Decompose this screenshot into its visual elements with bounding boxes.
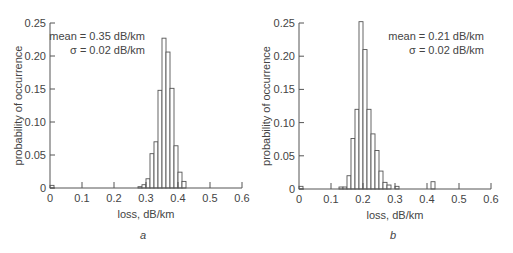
- histogram-bar: [170, 88, 174, 188]
- y-tick-label: 0.20: [25, 50, 46, 62]
- mean-annotation: mean = 0.35 dB/km: [49, 30, 145, 42]
- y-tick-label: 0: [289, 183, 295, 195]
- sigma-annotation: σ = 0.02 dB/km: [409, 44, 484, 56]
- histogram-panel-a: 00.10.20.30.40.50.600.050.100.150.200.25…: [12, 17, 250, 241]
- x-axis-label: loss, dB/km: [118, 208, 175, 220]
- histogram-bar: [154, 142, 158, 188]
- histogram-bar: [146, 179, 150, 188]
- x-tick-label: 0.4: [419, 193, 434, 205]
- histogram-panel-b: 00.10.20.30.40.50.600.050.100.150.200.25…: [260, 17, 499, 241]
- y-axis-label: probability of occurrence: [12, 46, 24, 166]
- x-tick-label: 0.6: [234, 192, 249, 204]
- x-tick-label: 0.3: [387, 193, 402, 205]
- histogram-bar: [359, 22, 363, 189]
- x-axis-label: loss, dB/km: [367, 209, 424, 221]
- histogram-bar: [355, 109, 359, 189]
- histogram-bar: [431, 182, 435, 189]
- y-tick-label: 0.25: [25, 17, 46, 29]
- histogram-bar: [166, 52, 170, 188]
- x-tick-label: 0.5: [451, 193, 466, 205]
- histogram-bar: [162, 38, 166, 188]
- x-tick-label: 0: [47, 192, 53, 204]
- histogram-bar: [178, 172, 182, 188]
- y-tick-label: 0.10: [274, 117, 295, 129]
- x-tick-label: 0.4: [170, 192, 185, 204]
- histogram-bar: [158, 90, 162, 188]
- y-axis-label: probability of occurrence: [260, 46, 272, 166]
- histogram-bar: [379, 171, 383, 189]
- y-tick-label: 0: [40, 182, 46, 194]
- panel-label: b: [390, 229, 396, 241]
- histogram-bar: [351, 139, 355, 189]
- mean-annotation: mean = 0.21 dB/km: [388, 30, 484, 42]
- histogram-bar: [383, 182, 387, 189]
- histogram-bar: [375, 150, 379, 189]
- histogram-bar: [371, 134, 375, 189]
- panel-label: a: [140, 229, 146, 241]
- x-tick-label: 0.5: [202, 192, 217, 204]
- y-tick-label: 0.05: [25, 149, 46, 161]
- histogram-bar: [150, 154, 154, 188]
- x-tick-label: 0.1: [323, 193, 338, 205]
- x-tick-label: 0.6: [483, 193, 498, 205]
- y-tick-label: 0.05: [274, 150, 295, 162]
- y-tick-label: 0.15: [274, 83, 295, 95]
- histogram-bar: [174, 146, 178, 188]
- x-tick-label: 0.2: [106, 192, 121, 204]
- y-tick-label: 0.25: [274, 17, 295, 29]
- x-tick-label: 0.1: [74, 192, 89, 204]
- histogram-bar: [367, 109, 371, 189]
- histogram-bar: [363, 50, 367, 189]
- x-tick-label: 0.3: [138, 192, 153, 204]
- figure: 00.10.20.30.40.50.600.050.100.150.200.25…: [0, 0, 513, 253]
- histogram-bar: [182, 181, 186, 188]
- histogram-bar: [387, 185, 391, 189]
- y-tick-label: 0.15: [25, 83, 46, 95]
- x-tick-label: 0: [296, 193, 302, 205]
- x-tick-label: 0.2: [355, 193, 370, 205]
- y-tick-label: 0.10: [25, 116, 46, 128]
- y-tick-label: 0.20: [274, 50, 295, 62]
- histogram-bar: [347, 176, 351, 189]
- sigma-annotation: σ = 0.02 dB/km: [70, 44, 145, 56]
